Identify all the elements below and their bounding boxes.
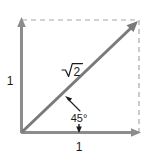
x-axis-unit-label: 1 (76, 140, 83, 154)
angle-leader-arrowhead-upper (65, 96, 72, 102)
angle-label: 45° (71, 112, 88, 124)
geometry-diagram: 2 45° 1 1 (0, 0, 161, 158)
hypotenuse-label: 2 (74, 65, 81, 79)
y-axis-unit-label: 1 (7, 74, 14, 88)
figure-container: 2 45° 1 1 (0, 0, 161, 158)
y-axis-arrowhead (17, 17, 26, 27)
